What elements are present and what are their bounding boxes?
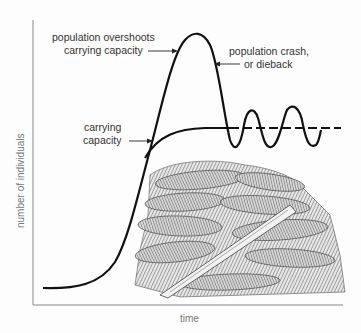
carrying-capacity-curve: [145, 128, 230, 158]
x-axis-label: time: [180, 313, 199, 324]
overshoot-label-line2: carrying capacity: [64, 44, 144, 56]
overshoot-label-line1: population overshoots: [52, 31, 155, 43]
crash-label-line1: population crash,: [229, 45, 309, 57]
y-axis-label: number of individuals: [15, 134, 26, 229]
annotation-overshoot: population overshoots carrying capacity: [52, 31, 178, 56]
annotation-carrying-capacity: carrying capacity: [83, 121, 153, 146]
cc-label-line1: carrying: [84, 121, 122, 133]
crash-label-line2: or dieback: [244, 58, 293, 70]
cc-label-line2: capacity: [83, 134, 122, 146]
population-diagram: population overshoots carrying capacity …: [0, 0, 361, 333]
annotation-crash: population crash, or dieback: [214, 45, 309, 70]
fish-pile-illustration: [134, 161, 345, 298]
